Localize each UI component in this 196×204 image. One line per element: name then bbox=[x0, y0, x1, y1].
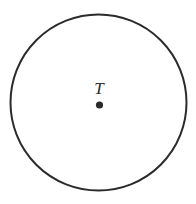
center-point-dot bbox=[96, 101, 103, 108]
center-point-label: T bbox=[94, 79, 105, 98]
figure-canvas: T bbox=[0, 0, 196, 204]
circle-diagram-svg: T bbox=[0, 0, 196, 204]
